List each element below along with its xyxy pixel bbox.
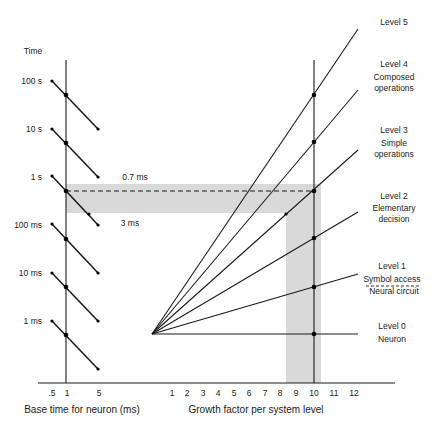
y-tick-100ms: 100 ms bbox=[14, 220, 42, 230]
svg-text:Composed: Composed bbox=[373, 72, 414, 82]
segment-10ms bbox=[50, 271, 99, 322]
svg-text:11: 11 bbox=[330, 388, 339, 398]
level-2-line bbox=[152, 212, 358, 334]
level-0-title: Level 0 bbox=[378, 321, 406, 331]
annotation-0-7ms: 0.7 ms bbox=[122, 172, 148, 182]
svg-text:4: 4 bbox=[216, 388, 221, 398]
y-tick-100s: 100 s bbox=[21, 76, 42, 86]
svg-text:1: 1 bbox=[170, 388, 175, 398]
system-levels-diagram: Time 100 s 10 s 1 s 100 ms 10 ms 1 ms 0.… bbox=[0, 0, 438, 429]
y-tick-10s: 10 s bbox=[26, 124, 42, 134]
svg-text:6: 6 bbox=[247, 388, 252, 398]
y-axis-title: Time bbox=[24, 46, 43, 56]
level-5-title: Level 5 bbox=[380, 17, 408, 27]
right-x-axis-title: Growth factor per system level bbox=[188, 404, 323, 415]
level-5-line bbox=[152, 29, 358, 334]
x-tick-5: 5 bbox=[97, 388, 102, 398]
svg-text:Neuron: Neuron bbox=[378, 334, 406, 344]
level-labels: Level 5 Level 4 Composed operations Leve… bbox=[363, 17, 421, 344]
svg-text:10: 10 bbox=[309, 388, 319, 398]
level-1-title: Level 1 bbox=[378, 261, 406, 271]
svg-text:Neural circuit: Neural circuit bbox=[369, 286, 419, 296]
svg-text:2: 2 bbox=[185, 388, 190, 398]
left-x-axis-title: Base time for neuron (ms) bbox=[24, 404, 140, 415]
shaded-band-vertical bbox=[286, 184, 321, 383]
x-tick-1: 1 bbox=[65, 388, 70, 398]
shaded-band-horizontal bbox=[66, 184, 321, 213]
time-segments bbox=[50, 79, 99, 370]
svg-text:9: 9 bbox=[294, 388, 299, 398]
svg-text:5: 5 bbox=[232, 388, 237, 398]
segment-1ms bbox=[50, 319, 99, 370]
svg-text:8: 8 bbox=[278, 388, 283, 398]
growth-factor-ticks: 1 2 3 4 5 6 7 8 9 10 11 12 bbox=[170, 388, 359, 398]
svg-text:Symbol access: Symbol access bbox=[363, 274, 420, 284]
svg-text:decision: decision bbox=[378, 214, 409, 224]
segment-100s bbox=[50, 79, 99, 130]
level-1-line bbox=[152, 274, 358, 334]
svg-text:7: 7 bbox=[263, 388, 268, 398]
level-3-title: Level 3 bbox=[380, 125, 408, 135]
level-2-title: Level 2 bbox=[380, 191, 408, 201]
svg-text:Elementary: Elementary bbox=[373, 203, 417, 213]
level-4-title: Level 4 bbox=[380, 59, 408, 69]
svg-text:operations: operations bbox=[374, 149, 414, 159]
level-3-line bbox=[152, 150, 358, 334]
svg-text:12: 12 bbox=[349, 388, 359, 398]
y-tick-1ms: 1 ms bbox=[24, 316, 42, 326]
level-lines bbox=[152, 29, 358, 336]
y-tick-10ms: 10 ms bbox=[19, 268, 42, 278]
x-tick-0-5: .5 bbox=[48, 388, 55, 398]
svg-text:operations: operations bbox=[374, 83, 414, 93]
svg-text:3: 3 bbox=[201, 388, 206, 398]
segment-10s bbox=[50, 127, 99, 178]
y-tick-1s: 1 s bbox=[31, 172, 42, 182]
segment-100ms bbox=[50, 222, 99, 274]
svg-text:Simple: Simple bbox=[381, 138, 407, 148]
annotation-3ms: 3 ms bbox=[121, 218, 139, 228]
